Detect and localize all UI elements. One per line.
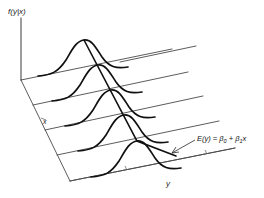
regression-equation-label: E(y) = β0 + β1x (197, 134, 247, 144)
regression-distribution-figure: f(y|x) x y E(y) = β0 + β1x (0, 0, 264, 198)
equation-lhs: E(y) = (197, 134, 219, 143)
grid-line-back-fragment (120, 46, 196, 62)
equation-leader (172, 140, 195, 153)
dist-curve-4 (52, 65, 142, 101)
dist-curve-5 (38, 40, 128, 76)
equation-leader-line (172, 140, 195, 153)
horizontal-axis-label: y (165, 179, 171, 188)
base-plane (21, 80, 235, 181)
equation-plus: + (227, 134, 236, 143)
dist-curve-1 (91, 141, 181, 177)
conditional-distributions (38, 40, 181, 177)
figure-canvas: f(y|x) x y E(y) = β0 + β1x (0, 0, 264, 198)
plane-left-edge (21, 80, 70, 181)
depth-axis-label: x (42, 118, 47, 125)
vertical-axis-label: f(y|x) (8, 7, 26, 16)
equation-var: x (242, 134, 247, 143)
